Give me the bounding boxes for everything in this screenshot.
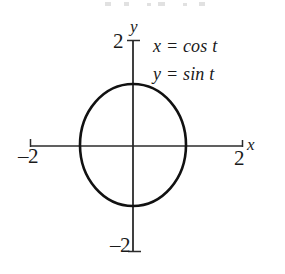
y-axis-name-label: y <box>130 18 138 35</box>
x-axis-name-label: x <box>247 136 255 153</box>
x-axis-tick-label-negative-2: –2 <box>18 146 38 167</box>
parametric-circle-figure: –2 2 2 –2 y x x = cos t y = sin t <box>0 0 285 274</box>
x-axis-tick-label-positive-2: 2 <box>234 148 244 169</box>
y-axis-tick-label-negative-2: –2 <box>110 235 130 256</box>
parametric-equations-annotation: x = cos t y = sin t <box>153 36 217 85</box>
equation-y-of-t: y = sin t <box>153 64 217 85</box>
y-axis-tick-label-positive-2: 2 <box>113 31 123 52</box>
coordinate-plot <box>0 0 285 274</box>
equation-x-of-t: x = cos t <box>153 36 217 57</box>
